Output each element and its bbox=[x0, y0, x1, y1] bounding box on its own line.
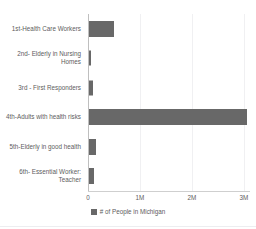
category-label-slot: 4th-Adults with health risks bbox=[0, 103, 84, 133]
bar[interactable] bbox=[89, 168, 94, 184]
chart-title-cropped bbox=[0, 0, 256, 9]
bar-slot bbox=[89, 132, 250, 162]
bar[interactable] bbox=[89, 109, 247, 125]
category-label-slot: 2nd- Elderly in Nursing Homes bbox=[0, 44, 84, 74]
legend-label: # of People in Michigan bbox=[100, 208, 165, 215]
bar-slot bbox=[89, 44, 250, 74]
category-label: 1st-Health Care Workers bbox=[12, 25, 84, 33]
x-axis-tick-labels: 0 1M 2M 3M bbox=[88, 194, 256, 206]
category-label-slot: 1st-Health Care Workers bbox=[0, 14, 84, 44]
bar-slot bbox=[89, 14, 250, 44]
category-axis-labels: 1st-Health Care Workers 2nd- Elderly in … bbox=[0, 14, 84, 191]
bars-layer bbox=[89, 14, 250, 191]
x-tick-label: 1M bbox=[136, 194, 145, 201]
category-label: 6th- Essential Worker: Teacher bbox=[0, 168, 84, 185]
category-label-slot: 3rd - First Responders bbox=[0, 73, 84, 103]
category-label-slot: 6th- Essential Worker: Teacher bbox=[0, 162, 84, 192]
x-axis-line bbox=[88, 191, 250, 192]
chart-legend: # of People in Michigan bbox=[0, 208, 256, 215]
category-label: 4th-Adults with health risks bbox=[6, 113, 84, 121]
legend-swatch-icon bbox=[91, 209, 97, 215]
category-label: 5th-Elderly in good health bbox=[10, 143, 84, 151]
bar[interactable] bbox=[89, 21, 114, 37]
category-label: 2nd- Elderly in Nursing Homes bbox=[0, 50, 84, 67]
bottom-divider bbox=[0, 226, 256, 227]
x-tick-label: 2M bbox=[187, 194, 196, 201]
bar-slot bbox=[89, 103, 250, 133]
chart-screenshot: 1st-Health Care Workers 2nd- Elderly in … bbox=[0, 0, 256, 229]
category-label-slot: 5th-Elderly in good health bbox=[0, 132, 84, 162]
x-tick-label: 0 bbox=[86, 194, 90, 201]
bar[interactable] bbox=[89, 80, 93, 95]
x-tick-label: 3M bbox=[239, 194, 248, 201]
bar-slot bbox=[89, 162, 250, 192]
category-label: 3rd - First Responders bbox=[18, 84, 84, 92]
bar[interactable] bbox=[89, 51, 91, 66]
bar-slot bbox=[89, 73, 250, 103]
bar[interactable] bbox=[89, 139, 96, 155]
